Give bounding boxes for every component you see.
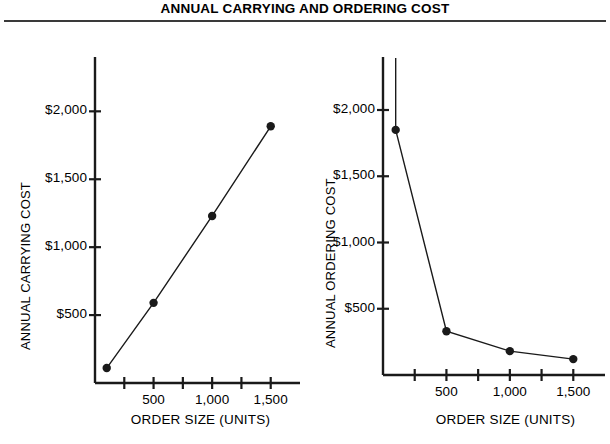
y-tick-label: $1,500 bbox=[9, 170, 87, 185]
x-tick-label: 1,500 bbox=[543, 384, 603, 399]
y-tick-label: $2,000 bbox=[297, 101, 375, 116]
x-tick-label: 1,500 bbox=[241, 392, 301, 407]
y-tick-label: $1,000 bbox=[297, 234, 375, 249]
figure-annual-carrying-and-ordering-cost: ANNUAL CARRYING AND ORDERING COST ANNUAL… bbox=[0, 0, 610, 444]
chart-panel-carrying-cost: ANNUAL CARRYING COST ORDER SIZE (UNITS) bbox=[0, 0, 305, 444]
x-tick-label: 500 bbox=[124, 392, 184, 407]
y-tick-label: $500 bbox=[297, 300, 375, 315]
y-axis-label-carrying-cost: ANNUAL CARRYING COST bbox=[18, 182, 33, 350]
y-tick-label: $1,500 bbox=[297, 167, 375, 182]
y-tick-label: $2,000 bbox=[9, 102, 87, 117]
x-axis-label-order-size-left: ORDER SIZE (UNITS) bbox=[98, 412, 303, 427]
x-tick-label: 1,000 bbox=[182, 392, 242, 407]
x-tick-label: 500 bbox=[416, 384, 476, 399]
ordering-cost-plot bbox=[305, 0, 610, 444]
y-tick-label: $1,000 bbox=[9, 238, 87, 253]
chart-panel-ordering-cost bbox=[305, 0, 610, 444]
x-tick-label: 1,000 bbox=[480, 384, 540, 399]
carrying-cost-plot bbox=[0, 0, 305, 444]
y-axis-label-ordering-cost: ANNUAL ORDERING COST bbox=[323, 178, 338, 348]
x-axis-label-order-size-right: ORDER SIZE (UNITS) bbox=[403, 412, 608, 427]
y-tick-label: $500 bbox=[9, 306, 87, 321]
